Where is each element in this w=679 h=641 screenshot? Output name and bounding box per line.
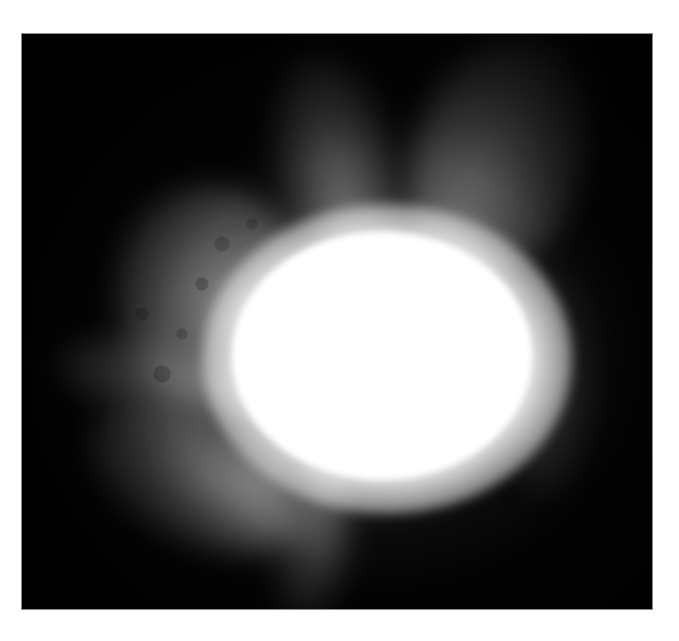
- streamer-right: [502, 264, 592, 494]
- streamer-top-left: [254, 44, 419, 294]
- mottled-texture: [22, 34, 652, 609]
- streamer-upper-left: [84, 157, 351, 442]
- bright-disk: [232, 232, 532, 480]
- disk-halo: [202, 204, 572, 514]
- corona-glow: [22, 34, 652, 609]
- streamer-left: [52, 318, 302, 441]
- streamer-lower-left: [65, 371, 328, 586]
- streamer-top-right: [378, 34, 617, 304]
- corona-photo: [22, 34, 652, 609]
- vignette: [22, 34, 652, 609]
- streamer-bottom: [261, 449, 364, 609]
